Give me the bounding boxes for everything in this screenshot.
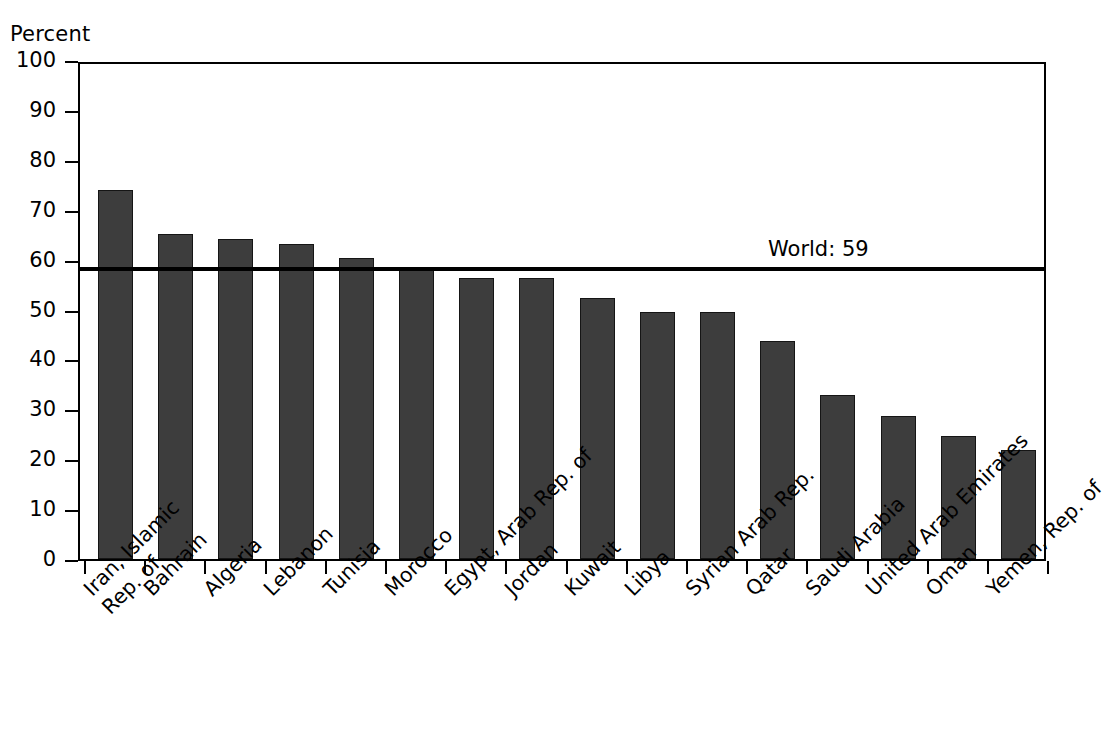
bar: [580, 298, 615, 559]
x-axis-tick-mark: [385, 561, 387, 574]
bar: [700, 312, 735, 560]
y-axis-tick-label: 90: [29, 98, 56, 122]
x-axis-tick-mark: [204, 561, 206, 574]
y-axis-tick-label: 100: [16, 48, 56, 72]
bar: [339, 258, 374, 559]
y-axis-tick-mark: [65, 111, 78, 113]
x-axis-tick-mark: [505, 561, 507, 574]
x-axis-tick-mark: [626, 561, 628, 574]
y-axis-tick-mark: [65, 360, 78, 362]
y-axis-tick-label: 60: [29, 248, 56, 272]
x-axis-tick-mark: [927, 561, 929, 574]
x-axis-tick-mark: [987, 561, 989, 574]
x-axis-tick-mark: [566, 561, 568, 574]
x-axis-tick-mark: [686, 561, 688, 574]
x-axis-tick-mark: [144, 561, 146, 574]
world-reference-label: World: 59: [768, 237, 869, 261]
y-axis-tick-mark: [65, 311, 78, 313]
bar: [279, 244, 314, 559]
y-axis-tick-mark: [65, 410, 78, 412]
x-axis-tick-mark: [867, 561, 869, 574]
y-axis-tick-label: 40: [29, 347, 56, 371]
y-axis-tick-label: 10: [29, 497, 56, 521]
y-axis-tick-mark: [65, 510, 78, 512]
bar: [459, 278, 494, 559]
y-axis-tick-label: 70: [29, 198, 56, 222]
x-axis-tick-mark: [265, 561, 267, 574]
x-axis-tick-mark: [325, 561, 327, 574]
bar: [98, 190, 133, 559]
y-axis: 0102030405060708090100: [0, 0, 78, 625]
x-axis-tick-mark: [445, 561, 447, 574]
y-axis-tick-label: 80: [29, 148, 56, 172]
bar: [218, 239, 253, 559]
y-axis-tick-mark: [65, 460, 78, 462]
y-axis-tick-label: 30: [29, 397, 56, 421]
y-axis-tick-label: 20: [29, 447, 56, 471]
x-axis-tick-mark: [84, 561, 86, 574]
x-axis-tick-mark: [746, 561, 748, 574]
x-axis-labels: Iran, IslamicRep. ofBahrainAlgeriaLebano…: [0, 561, 1076, 753]
y-axis-tick-mark: [65, 261, 78, 263]
world-reference-line: [80, 267, 1044, 271]
y-axis-tick-mark: [65, 211, 78, 213]
y-axis-tick-label: 50: [29, 298, 56, 322]
x-axis-tick-mark: [1047, 561, 1049, 574]
y-axis-tick-mark: [65, 161, 78, 163]
y-axis-tick-mark: [65, 61, 78, 63]
bar: [399, 267, 434, 559]
bar: [640, 312, 675, 560]
x-axis-tick-mark: [806, 561, 808, 574]
